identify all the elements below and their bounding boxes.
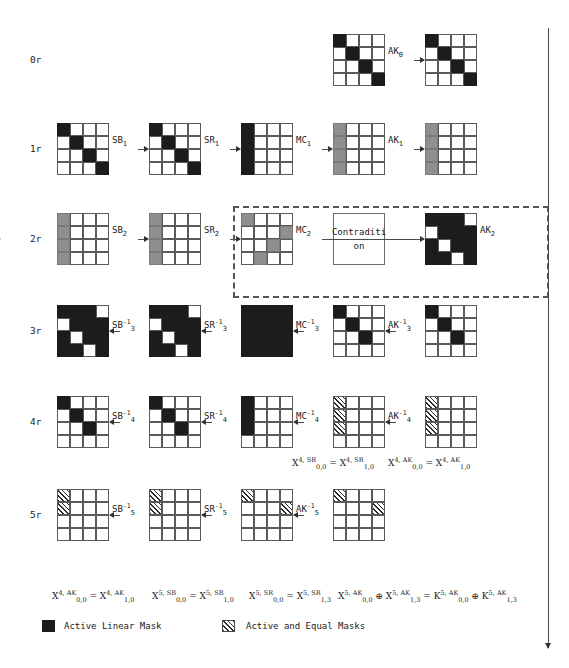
cell-r1-c2 bbox=[83, 409, 96, 422]
cell-r2-c2 bbox=[359, 149, 372, 162]
cell-r2-c3 bbox=[96, 149, 109, 162]
cell-r3-c3 bbox=[464, 435, 477, 448]
cell-r1-c3 bbox=[464, 136, 477, 149]
cell-r1-c0 bbox=[241, 409, 254, 422]
cell-r1-c1 bbox=[70, 226, 83, 239]
cell-r1-c1 bbox=[438, 226, 451, 239]
row-label-row3: 3r bbox=[30, 326, 41, 336]
cell-r1-c1 bbox=[346, 136, 359, 149]
cell-r3-c1 bbox=[162, 162, 175, 175]
cell-r3-c2 bbox=[451, 162, 464, 175]
cell-r0-c0 bbox=[241, 305, 254, 318]
cell-r0-c2 bbox=[359, 34, 372, 47]
cell-r3-c0 bbox=[241, 162, 254, 175]
cell-r0-c2 bbox=[451, 213, 464, 226]
cell-r3-c1 bbox=[254, 344, 267, 357]
state-4r-d bbox=[333, 396, 385, 448]
cell-r0-c3 bbox=[464, 396, 477, 409]
cell-r0-c0 bbox=[333, 489, 346, 502]
cell-r2-c0 bbox=[149, 239, 162, 252]
cell-r0-c2 bbox=[451, 396, 464, 409]
cell-r0-c2 bbox=[451, 305, 464, 318]
legend-swatch-hatch bbox=[222, 620, 235, 632]
cell-r1-c3 bbox=[96, 226, 109, 239]
cell-r1-c1 bbox=[346, 318, 359, 331]
cell-r2-c3 bbox=[464, 149, 477, 162]
cell-r1-c1 bbox=[162, 409, 175, 422]
cell-r3-c0 bbox=[57, 528, 70, 541]
cell-r0-c0 bbox=[241, 489, 254, 502]
cell-r1-c0 bbox=[149, 226, 162, 239]
cell-r3-c2 bbox=[175, 528, 188, 541]
arrow-row2-0 bbox=[138, 239, 148, 240]
arrow-row1-2 bbox=[322, 149, 332, 150]
contradiction-line2: on bbox=[354, 241, 365, 251]
cell-r1-c1 bbox=[162, 226, 175, 239]
cell-r3-c0 bbox=[333, 528, 346, 541]
cell-r2-c1 bbox=[346, 422, 359, 435]
cell-r0-c2 bbox=[83, 305, 96, 318]
cell-r3-c1 bbox=[70, 252, 83, 265]
cell-r3-c2 bbox=[267, 528, 280, 541]
cell-r1-c0 bbox=[425, 318, 438, 331]
cell-r0-c1 bbox=[70, 213, 83, 226]
cell-r1-c3 bbox=[464, 226, 477, 239]
cell-r2-c0 bbox=[241, 239, 254, 252]
cell-r2-c1 bbox=[254, 515, 267, 528]
cell-r3-c1 bbox=[162, 344, 175, 357]
cell-r2-c1 bbox=[438, 149, 451, 162]
cell-r1-c2 bbox=[83, 318, 96, 331]
state-5r-d bbox=[333, 489, 385, 541]
cell-r0-c3 bbox=[96, 305, 109, 318]
cell-r3-c3 bbox=[280, 435, 293, 448]
cell-r0-c0 bbox=[333, 305, 346, 318]
arrow-row2-2 bbox=[322, 239, 424, 240]
cell-r2-c1 bbox=[70, 239, 83, 252]
arrow-row0-0 bbox=[414, 60, 424, 61]
cell-r3-c3 bbox=[280, 528, 293, 541]
cell-r3-c0 bbox=[149, 344, 162, 357]
cell-r3-c3 bbox=[372, 344, 385, 357]
cell-r3-c3 bbox=[96, 252, 109, 265]
cell-r1-c0 bbox=[149, 409, 162, 422]
cell-r1-c2 bbox=[175, 318, 188, 331]
formula-bottom-4: X5, AK0,0 ⊕ X5, AK1,3 = K5, AK0,0 ⊕ K5, … bbox=[338, 588, 517, 606]
cell-r0-c2 bbox=[175, 123, 188, 136]
cell-r2-c2 bbox=[359, 422, 372, 435]
cell-r2-c2 bbox=[267, 149, 280, 162]
legend-label-0: Active Linear Mask bbox=[64, 621, 162, 632]
op-label-row2-2: MC2 bbox=[296, 225, 311, 239]
state-1r-e bbox=[425, 123, 477, 175]
cell-r2-c3 bbox=[96, 422, 109, 435]
cell-r1-c3 bbox=[372, 136, 385, 149]
cell-r1-c1 bbox=[346, 409, 359, 422]
cell-r1-c3 bbox=[280, 136, 293, 149]
formula-bottom-2: X5, SB0,0 = X5, SB1,0 bbox=[152, 588, 234, 606]
cell-r2-c0 bbox=[241, 515, 254, 528]
cell-r0-c0 bbox=[241, 396, 254, 409]
cell-r2-c0 bbox=[241, 331, 254, 344]
cell-r2-c0 bbox=[149, 515, 162, 528]
cell-r3-c2 bbox=[175, 252, 188, 265]
cell-r1-c1 bbox=[254, 226, 267, 239]
cell-r3-c0 bbox=[425, 162, 438, 175]
cell-r1-c0 bbox=[241, 318, 254, 331]
cell-r1-c2 bbox=[83, 226, 96, 239]
cell-r2-c1 bbox=[346, 60, 359, 73]
cell-r2-c2 bbox=[175, 149, 188, 162]
cell-r1-c0 bbox=[149, 502, 162, 515]
cell-r2-c0 bbox=[333, 60, 346, 73]
cell-r3-c0 bbox=[333, 73, 346, 86]
cell-r1-c2 bbox=[359, 502, 372, 515]
cell-r1-c2 bbox=[359, 47, 372, 60]
cell-r2-c0 bbox=[57, 149, 70, 162]
state-4r-b bbox=[149, 396, 201, 448]
cell-r1-c1 bbox=[70, 318, 83, 331]
cell-r3-c2 bbox=[83, 528, 96, 541]
cell-r1-c0 bbox=[57, 136, 70, 149]
cell-r0-c1 bbox=[162, 396, 175, 409]
cell-r3-c3 bbox=[372, 73, 385, 86]
cell-r0-c1 bbox=[162, 489, 175, 502]
cell-r1-c1 bbox=[438, 47, 451, 60]
cell-r2-c3 bbox=[372, 331, 385, 344]
